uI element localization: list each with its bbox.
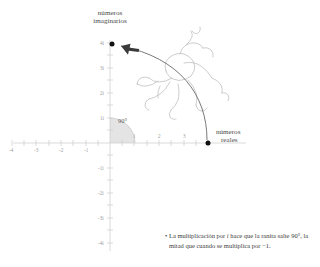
complex-plane-diagram: números imaginarios números reales 90° -…	[0, 0, 320, 267]
x-tick-label-3: 3	[183, 133, 186, 139]
real-axis-title-line1: números	[216, 128, 286, 136]
x-tick-label-2: 2	[158, 133, 161, 139]
y-tick-label-1i: 1i	[100, 115, 104, 121]
real-axis-title: números reales	[216, 128, 286, 145]
caption-line1-a: La multiplicación por	[169, 232, 227, 239]
real-axis-title-line2: reales	[216, 136, 286, 144]
x-tick-label--4: -4	[9, 147, 13, 153]
caption-line1-b: hace que la ranita salte	[229, 232, 290, 239]
frog-illustration	[137, 27, 229, 119]
x-tick-label--2: -2	[59, 147, 63, 153]
imaginary-axis-title: números imaginarios	[70, 9, 150, 26]
y-tick-label--3i: -3i	[98, 215, 104, 221]
x-tick-label-1: 1	[133, 133, 136, 139]
caption-bullet: •	[165, 232, 167, 239]
point-end-4i[interactable]	[110, 42, 115, 47]
y-tick-label--1i: -1i	[98, 165, 104, 171]
y-tick-label-3i: 3i	[100, 65, 104, 71]
imaginary-axis-title-line2: imaginarios	[70, 17, 150, 25]
x-tick-label--1: -1	[84, 147, 88, 153]
caption-text: • La multiplicación por i hace que la ra…	[165, 231, 319, 251]
point-start-real-4[interactable]	[206, 141, 211, 146]
arrow-head	[121, 44, 139, 55]
y-tick-label-2i: 2i	[100, 90, 104, 96]
y-tick-label--4i: -4i	[98, 240, 104, 246]
y-tick-label-4i: 4i	[100, 40, 104, 46]
rotation-arc	[121, 46, 207, 140]
y-tick-label--2i: -2i	[98, 190, 104, 196]
x-tick-label--3: -3	[34, 147, 38, 153]
imaginary-axis-title-line1: números	[70, 9, 150, 17]
angle-label: 90°	[118, 117, 127, 124]
